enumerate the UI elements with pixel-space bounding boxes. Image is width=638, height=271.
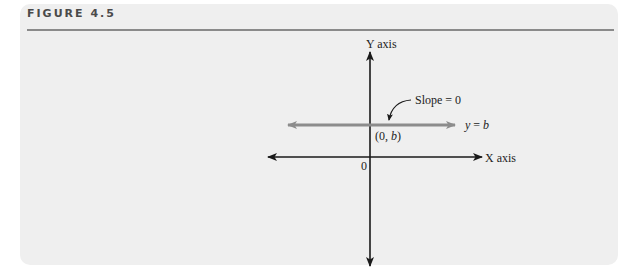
- line-equation-label: y = b: [464, 118, 489, 132]
- y-axis-label: Y axis: [366, 37, 397, 51]
- coordinate-diagram: Y axis X axis 0 Slope = 0 y = b (0, b): [0, 0, 638, 271]
- x-axis-label: X axis: [485, 151, 516, 165]
- slope-label: Slope = 0: [415, 93, 461, 107]
- intercept-label: (0, b): [375, 129, 401, 143]
- slope-pointer-arrow: [389, 100, 411, 120]
- origin-label: 0: [361, 159, 367, 173]
